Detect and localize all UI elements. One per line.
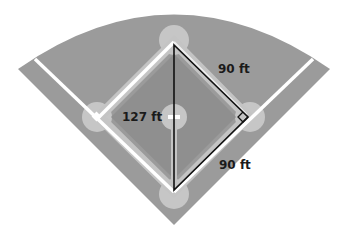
label-bottom-side: 90 ft	[219, 159, 251, 171]
label-top-side: 90 ft	[218, 63, 250, 75]
baseball-diamond-diagram	[0, 0, 342, 242]
label-diagonal: 127 ft	[122, 111, 162, 123]
